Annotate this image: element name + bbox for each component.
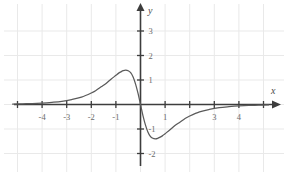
- x-axis-label: x: [270, 85, 276, 96]
- tick-label-y: 1: [149, 75, 153, 85]
- tick-label-x: -3: [63, 112, 70, 122]
- tick-label-x: 1: [163, 112, 167, 122]
- tick-label-y: 3: [149, 26, 153, 36]
- tick-label-x: -1: [112, 112, 119, 122]
- function-plot: -4-3-2-1134 321-1-2 x y: [0, 0, 288, 175]
- y-axis-label: y: [147, 5, 153, 16]
- tick-label-y: -2: [149, 149, 156, 159]
- tick-label-y: 2: [149, 51, 153, 61]
- graph-canvas: -4-3-2-1134 321-1-2 x y: [0, 0, 288, 175]
- tick-label-x: -4: [39, 112, 47, 122]
- tick-label-x: 3: [212, 112, 216, 122]
- plot-background: [0, 0, 288, 175]
- tick-label-x: 4: [237, 112, 242, 122]
- tick-label-x: -2: [88, 112, 95, 122]
- tick-label-y: -1: [149, 124, 156, 134]
